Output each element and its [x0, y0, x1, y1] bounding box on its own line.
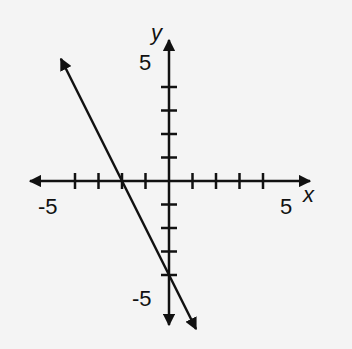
- y-axis-label: y: [149, 20, 164, 45]
- x-max-label: 5: [280, 194, 292, 219]
- data-line: [61, 59, 196, 329]
- x-axis-label: x: [302, 182, 315, 207]
- y-max-label: 5: [139, 50, 151, 75]
- y-min-label: -5: [132, 286, 152, 311]
- x-min-label: -5: [38, 194, 58, 219]
- coordinate-plane: -5 5 5 -5 x y: [0, 0, 352, 349]
